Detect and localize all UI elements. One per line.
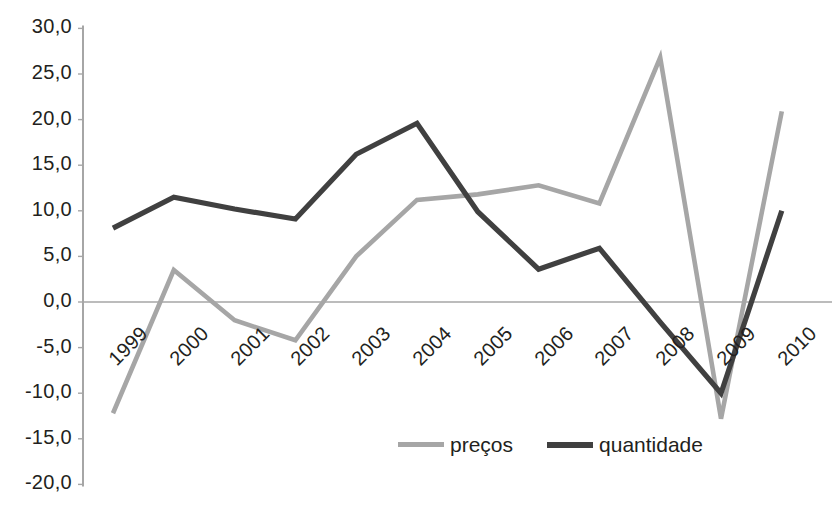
legend-label-quantidade: quantidade (599, 434, 703, 455)
x-axis-tick-label: 2000 (165, 322, 213, 370)
x-axis-tick-label: 2003 (347, 322, 395, 370)
legend-item-quantidade: quantidade (547, 434, 703, 455)
x-axis-tick-label: 2007 (590, 322, 638, 370)
line-chart: 30,025,020,015,010,05,00,0-5,0-10,0-15,0… (0, 0, 834, 512)
legend-item-precos: preços (398, 434, 513, 455)
x-axis-tick-label: 2009 (712, 322, 760, 370)
x-axis-tick-label: 2001 (226, 322, 274, 370)
legend-label-precos: preços (450, 434, 513, 455)
x-axis-tick-label: 2008 (651, 322, 699, 370)
x-axis-tick-label: 2006 (530, 322, 578, 370)
legend-swatch-quantidade (547, 442, 593, 448)
x-axis-tick-label: 2005 (469, 322, 517, 370)
x-axis-tick-label: 1999 (104, 322, 152, 370)
legend-swatch-precos (398, 442, 444, 447)
chart-legend: preços quantidade (398, 434, 703, 455)
x-axis-tick-label: 2002 (286, 322, 334, 370)
x-axis-tick-label: 2004 (408, 322, 456, 370)
x-axis-tick-label: 2010 (773, 322, 821, 370)
